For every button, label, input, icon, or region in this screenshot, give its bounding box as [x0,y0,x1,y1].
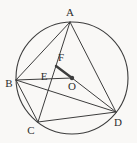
geometry-figure: ABCDOEF [0,0,137,143]
point-label-C: C [27,124,34,136]
point-label-D: D [114,116,122,128]
point-label-E: E [41,70,48,82]
segment-FO [56,66,72,78]
point-label-O: O [68,80,76,92]
point-label-F: F [58,51,64,63]
diagram-canvas: ABCDOEF [0,0,137,143]
point-label-A: A [66,6,74,18]
segment-CD [38,112,116,122]
segment-OD [72,78,116,112]
point-label-B: B [5,77,12,89]
segment-BD [16,80,116,112]
